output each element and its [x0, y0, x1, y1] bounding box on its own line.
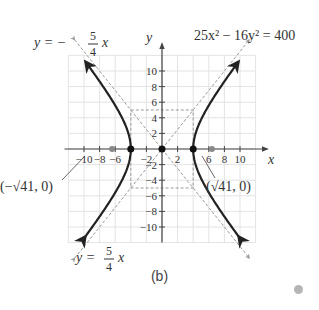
- y-tick-label: −6: [145, 190, 157, 202]
- focus-point: [209, 146, 215, 152]
- svg-text:x: x: [101, 35, 109, 50]
- x-tick-label: 8: [222, 153, 228, 165]
- equation-label: 25x² − 16y² = 400: [194, 28, 295, 43]
- center-point: [159, 146, 166, 153]
- svg-text:5: 5: [90, 29, 96, 43]
- y-tick-label: 4: [152, 112, 158, 124]
- y-tick-label: 10: [146, 65, 158, 77]
- y-tick-label: 8: [152, 81, 158, 93]
- svg-text:y = −: y = −: [32, 35, 66, 50]
- x-tick-label: −6: [109, 153, 121, 165]
- y-tick-label: 2: [152, 127, 158, 139]
- y-tick-label: 6: [152, 96, 158, 108]
- focus-point: [109, 146, 115, 152]
- y-tick-label: −2: [145, 159, 157, 171]
- svg-text:5: 5: [106, 244, 112, 258]
- x-tick-label: −8: [94, 153, 106, 165]
- hyperbola-plot: −10−8−6−226810108642−2−4−6−8−10 25x² − 1…: [0, 0, 319, 310]
- focus-right-label: (√41, 0): [206, 179, 251, 195]
- focus-left-label: (−√41, 0): [0, 179, 53, 195]
- figure-caption: (b): [0, 268, 319, 284]
- x-axis-label: x: [267, 152, 275, 167]
- focus-left-leader: [62, 156, 85, 180]
- x-tick-label: 2: [175, 153, 181, 165]
- svg-text:x: x: [117, 250, 125, 265]
- status-dot: [294, 285, 303, 294]
- svg-text:4: 4: [90, 45, 96, 59]
- asymptote-label-upper: y = − 5 4 x: [32, 29, 109, 59]
- y-tick-label: −4: [145, 174, 157, 186]
- y-tick-label: −8: [145, 205, 157, 217]
- vertex-point: [127, 146, 134, 153]
- x-tick-label: 6: [206, 153, 212, 165]
- vertex-point: [190, 146, 197, 153]
- svg-text:y =: y =: [74, 250, 95, 265]
- y-axis-label: y: [144, 30, 153, 45]
- y-tick-label: −10: [140, 221, 158, 233]
- x-tick-label: 10: [235, 153, 247, 165]
